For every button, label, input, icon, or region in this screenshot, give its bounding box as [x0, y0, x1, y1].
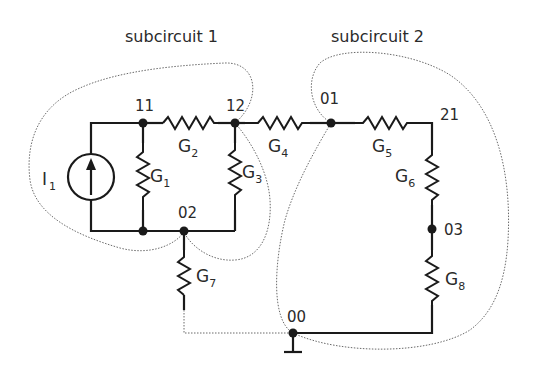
node-label-01: 01 [320, 90, 339, 108]
resistor-g5 [355, 117, 410, 129]
resistor-g6 [426, 150, 438, 205]
wires [91, 123, 432, 352]
label-g8: G8 [445, 269, 465, 293]
node-label-02: 02 [178, 204, 197, 222]
label-g5: G5 [372, 136, 392, 160]
resistor-g2 [163, 117, 218, 129]
subcircuit-2-title: subcircuit 2 [331, 27, 424, 46]
subcircuit-2-boundary [277, 52, 509, 349]
label-g6: G6 [395, 166, 415, 190]
resistor-g4 [245, 117, 310, 129]
node-label-12: 12 [226, 97, 245, 115]
node-01-dot [327, 119, 336, 128]
resistor-g1 [137, 143, 149, 210]
label-g3: G3 [242, 162, 262, 186]
node-02-dot [180, 227, 189, 236]
label-g1: G1 [150, 166, 170, 190]
node-label-21: 21 [440, 106, 459, 124]
node-11-dot [139, 119, 148, 128]
node-label-00: 00 [287, 308, 306, 326]
current-source-i1 [68, 154, 114, 200]
g7-ground-link [184, 310, 293, 333]
node-03-dot [428, 225, 437, 234]
node-00-dot [289, 329, 298, 338]
node-label-11: 11 [135, 97, 154, 115]
label-g2: G2 [178, 136, 198, 160]
resistor-g8 [426, 250, 438, 305]
resistor-g7 [178, 250, 190, 295]
resistor-g3 [229, 143, 241, 210]
label-i1: I1 [42, 169, 56, 193]
label-g4: G4 [268, 136, 288, 160]
node-12-dot [231, 119, 240, 128]
subcircuit-1-title: subcircuit 1 [125, 27, 218, 46]
node-label-03: 03 [444, 221, 463, 239]
arrow-up-icon [86, 158, 96, 170]
label-g7: G7 [196, 266, 216, 290]
circuit-diagram: subcircuit 1 subcircuit 2 11 12 01 21 02… [0, 0, 537, 377]
node-02a-dot [139, 227, 148, 236]
